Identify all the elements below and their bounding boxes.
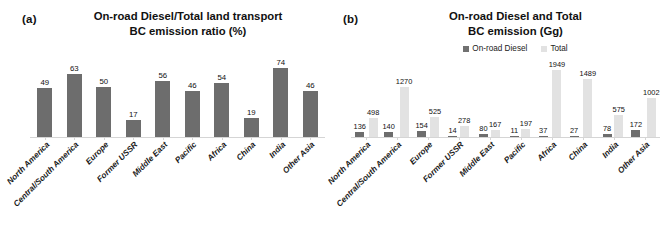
bar-group: 136498 (351, 60, 382, 137)
chart-title-a-line2: BC emission ratio (%) (52, 24, 324, 39)
bar-group: 49 (30, 58, 60, 137)
bar-pair: 271489 (570, 60, 596, 137)
x-axis-labels-a: North AmericaCentral/South AmericaEurope… (30, 140, 325, 224)
panel-label-a: (a) (22, 13, 37, 25)
chart-title-a-line1: On-road Diesel/Total land transport (52, 9, 324, 24)
bar-pair: 136498 (354, 60, 380, 137)
bar-group: 78575 (598, 60, 629, 137)
chart-panel-b: (b) On-road Diesel and Total BC emission… (333, 0, 666, 227)
legend-label: On-road Diesel (472, 44, 527, 53)
x-axis-labels-b: North AmericaCentral/South AmericaEurope… (351, 140, 660, 224)
bar-value-label: 1002 (643, 88, 659, 97)
legend-item-2[interactable]: Total (541, 44, 567, 53)
bar-value-label: 278 (458, 116, 470, 125)
bar-value-label: 50 (99, 77, 108, 86)
bar-column[interactable]: 136 (354, 60, 366, 137)
bar-value-label: 136 (354, 122, 366, 131)
bar-column[interactable]: 78 (603, 60, 612, 137)
bar-value-label: 167 (489, 120, 501, 129)
bar[interactable] (273, 68, 288, 137)
bar-value-label: 54 (217, 73, 226, 82)
bar-group: 74 (266, 58, 296, 137)
bar-group: 271489 (567, 60, 598, 137)
bar-column[interactable]: 498 (367, 60, 379, 137)
panel-label-b: (b) (343, 13, 358, 25)
chart-title-b-line2: BC emission (Gg) (373, 24, 658, 39)
bar[interactable] (37, 88, 52, 137)
bar-group: 46 (296, 58, 326, 137)
bar-value-label: 1270 (396, 77, 412, 86)
bar-value-label: 46 (188, 81, 197, 90)
bar-value-label: 1489 (580, 69, 596, 78)
legend-item-1[interactable]: On-road Diesel (463, 44, 527, 53)
bar-column[interactable]: 49 (37, 58, 52, 137)
bar-column[interactable]: 172 (630, 60, 642, 137)
bar-column[interactable]: 1489 (580, 60, 596, 137)
bar-column[interactable]: 19 (244, 58, 259, 137)
bar[interactable] (303, 91, 318, 137)
bar-value-label: 19 (247, 108, 256, 117)
bar-column[interactable]: 167 (489, 60, 501, 137)
legend-square-icon (463, 46, 469, 52)
bar-value-label: 498 (367, 108, 379, 117)
chart-title-b-line1: On-road Diesel and Total (373, 9, 658, 24)
bar-column[interactable]: 74 (273, 58, 288, 137)
legend-label: Total (550, 44, 567, 53)
chart-panel-a: (a) On-road Diesel/Total land transport … (0, 0, 333, 227)
bar-pair: 1721002 (630, 60, 660, 137)
chart-title-b: On-road Diesel and Total BC emission (Gg… (373, 9, 658, 39)
bar-column[interactable]: 575 (613, 60, 625, 137)
bar-value-label: 172 (630, 120, 642, 129)
bar-column[interactable]: 278 (458, 60, 470, 137)
bar-value-label: 575 (613, 105, 625, 114)
bar-value-label: 17 (129, 110, 138, 119)
bar-total[interactable] (552, 70, 561, 137)
bar-pair: 78575 (603, 60, 625, 137)
bar-value-label: 56 (158, 71, 167, 80)
bar-column[interactable]: 197 (520, 60, 532, 137)
chart-legend: On-road DieselTotal (373, 44, 658, 53)
bar-value-label: 63 (70, 64, 79, 73)
bar-value-label: 74 (276, 58, 285, 67)
bar-total[interactable] (583, 79, 592, 137)
bar-value-label: 1949 (549, 60, 565, 69)
legend-square-icon (541, 46, 547, 52)
bar-group: 1721002 (629, 60, 660, 137)
bar-column[interactable]: 46 (303, 58, 318, 137)
chart-title-a: On-road Diesel/Total land transport BC e… (52, 9, 324, 39)
bar-value-label: 46 (306, 81, 315, 90)
figure-container: (a) On-road Diesel/Total land transport … (0, 0, 666, 227)
bar-value-label: 49 (40, 78, 49, 87)
bar-column[interactable]: 1002 (643, 60, 659, 137)
bar-column[interactable]: 54 (214, 58, 229, 137)
bar[interactable] (214, 83, 229, 137)
bar-column[interactable]: 1949 (549, 60, 565, 137)
